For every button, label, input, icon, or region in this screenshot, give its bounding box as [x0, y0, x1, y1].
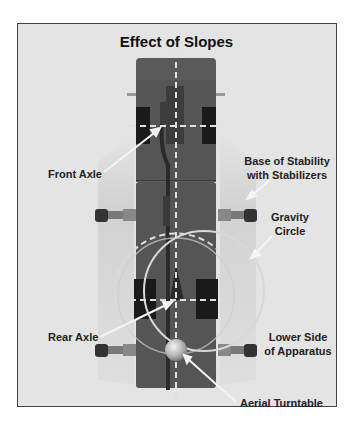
label-gravity-circle: Gravity Circle: [262, 210, 318, 238]
label-base-line1: Base of Stability: [239, 154, 335, 168]
label-aerial-turntable: Aerial Turntable: [240, 396, 323, 410]
label-rear-axle: Rear Axle: [48, 330, 98, 344]
label-gravity-line1: Gravity: [262, 210, 318, 224]
label-base-line2: with Stabilizers: [239, 168, 335, 182]
label-gravity-line2: Circle: [262, 224, 318, 238]
label-lower-line1: Lower Side: [262, 330, 334, 344]
label-front-axle: Front Axle: [48, 167, 102, 181]
label-base-of-stability: Base of Stability with Stabilizers: [239, 154, 335, 182]
label-lower-side: Lower Side of Apparatus: [262, 330, 334, 358]
label-lower-line2: of Apparatus: [262, 344, 334, 358]
aerial-turntable: [165, 339, 187, 361]
diagram-title: Effect of Slopes: [0, 33, 353, 50]
